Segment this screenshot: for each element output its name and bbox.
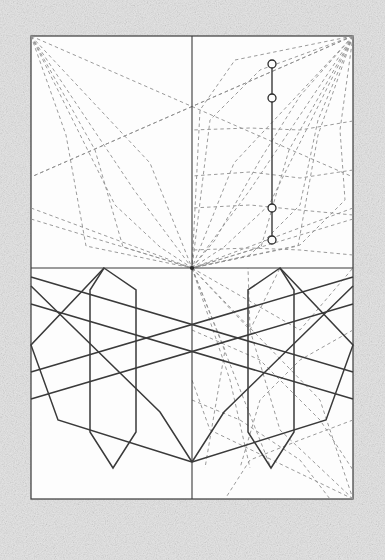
center-point xyxy=(190,266,194,270)
node-marker-1 xyxy=(268,60,276,68)
construction-diagram xyxy=(0,0,385,560)
node-marker-4 xyxy=(268,236,276,244)
node-marker-3 xyxy=(268,204,276,212)
node-marker-2 xyxy=(268,94,276,102)
